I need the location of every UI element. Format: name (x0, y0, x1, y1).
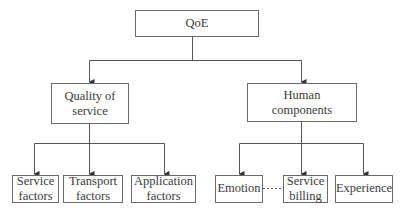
node-service-billing: Service billing (283, 175, 328, 203)
node-experience: Experience (335, 175, 393, 203)
node-application-factors: Application factors (131, 175, 196, 203)
node-label: Transport factors (69, 174, 117, 204)
node-label: Human components (272, 88, 332, 118)
node-label: QoE (186, 16, 209, 31)
node-label: Emotion (217, 181, 260, 196)
node-service-factors: Service factors (12, 175, 59, 203)
node-label: Quality of service (64, 89, 115, 119)
node-label: Service factors (17, 174, 54, 204)
node-emotion: Emotion (215, 175, 263, 203)
node-quality-of-service: Quality of service (51, 83, 129, 124)
node-human-components: Human components (247, 83, 357, 122)
node-qoe: QoE (135, 10, 259, 37)
node-transport-factors: Transport factors (63, 175, 123, 203)
node-label: Experience (336, 181, 392, 196)
node-label: Service billing (287, 174, 324, 204)
node-label: Application factors (134, 174, 193, 204)
